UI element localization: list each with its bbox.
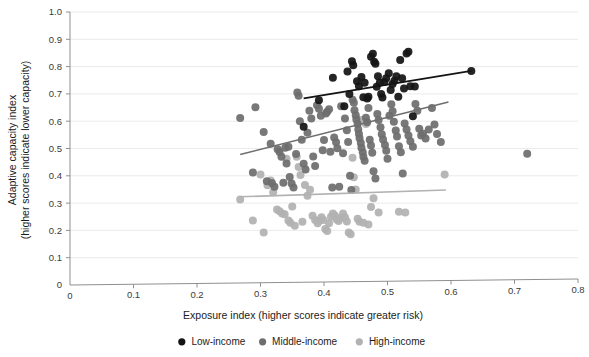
data-point <box>397 148 405 156</box>
data-point <box>306 186 314 194</box>
data-point <box>307 114 315 122</box>
x-tick-label: 0.4 <box>317 287 330 298</box>
x-tick-label: 0.1 <box>127 289 140 300</box>
data-point <box>411 100 419 108</box>
data-point <box>328 184 336 192</box>
data-point <box>368 149 376 157</box>
data-point <box>311 162 319 170</box>
data-point <box>309 152 317 160</box>
data-point <box>277 153 285 161</box>
data-point <box>260 229 268 237</box>
data-point <box>523 150 531 158</box>
data-point <box>364 220 372 228</box>
x-tick-label: 0.8 <box>571 284 584 295</box>
data-point <box>371 175 379 183</box>
data-point <box>361 79 369 87</box>
y-tick-label: 0.6 <box>49 116 62 127</box>
legend: Low-incomeMiddle-incomeHigh-income <box>178 336 425 347</box>
data-point <box>315 96 323 104</box>
data-point <box>385 69 393 77</box>
data-point <box>364 93 372 101</box>
y-axis-title-line2: (higher scores indicate lower capacity) <box>19 61 31 240</box>
legend-marker-middle-income <box>259 338 266 345</box>
y-axis-title: Adaptive capacity index (higher scores i… <box>6 61 31 240</box>
data-point <box>401 208 409 216</box>
data-point <box>295 92 303 100</box>
data-point <box>437 138 445 146</box>
data-point <box>249 217 257 225</box>
y-axis-group: 00.10.20.30.40.50.60.70.80.91.0 <box>49 6 70 290</box>
legend-label-middle-income[interactable]: Middle-income <box>272 336 337 347</box>
data-point <box>249 169 257 177</box>
data-point <box>346 172 354 180</box>
data-point <box>369 50 377 58</box>
data-point <box>291 222 299 230</box>
data-point <box>339 149 347 157</box>
x-tick-label: 0.7 <box>508 285 521 296</box>
y-tick-label: 0.7 <box>49 88 62 99</box>
data-point <box>302 166 310 174</box>
data-point <box>387 100 395 108</box>
data-point <box>375 208 383 216</box>
data-point <box>283 160 291 168</box>
data-point <box>404 48 412 56</box>
data-point <box>361 157 369 165</box>
y-tick-label: 0.8 <box>49 61 62 72</box>
data-point <box>284 143 292 151</box>
scatter-plot-svg: Adaptive capacity index (higher scores i… <box>0 0 589 357</box>
data-point <box>382 147 390 155</box>
series-high-income <box>236 116 448 238</box>
y-axis-title-line1: Adaptive capacity index <box>6 94 18 205</box>
data-point <box>341 114 349 122</box>
data-point <box>364 104 372 112</box>
data-point <box>279 179 287 187</box>
data-point <box>370 167 378 175</box>
data-point <box>320 136 328 144</box>
data-point <box>422 134 430 142</box>
data-point <box>251 103 259 111</box>
data-point <box>343 217 351 225</box>
x-tick-label: 0.3 <box>254 288 267 299</box>
legend-label-high-income[interactable]: High-income <box>369 336 426 347</box>
data-point <box>350 99 358 107</box>
data-point <box>260 128 268 136</box>
data-point <box>433 130 441 138</box>
data-point <box>393 132 401 140</box>
data-point <box>349 154 357 162</box>
data-point <box>300 123 308 131</box>
legend-marker-high-income <box>356 338 363 345</box>
data-point <box>340 102 348 110</box>
data-point <box>270 183 278 191</box>
y-tick-label: 0 <box>57 279 62 290</box>
legend-label-low-income[interactable]: Low-income <box>191 336 245 347</box>
data-point <box>323 227 331 235</box>
y-tick-label: 0.5 <box>49 143 62 154</box>
data-point <box>390 118 398 126</box>
x-axis-group: 00.10.20.30.40.50.60.70.8 <box>67 279 584 301</box>
legend-marker-low-income <box>178 338 185 345</box>
y-tick-label: 0.9 <box>49 34 62 45</box>
y-tick-label: 0.4 <box>49 170 62 181</box>
data-point <box>378 93 386 101</box>
data-point <box>441 170 449 178</box>
series-middle-income <box>236 89 531 194</box>
data-point <box>344 68 352 76</box>
data-point <box>319 146 327 154</box>
x-tick-label: 0.2 <box>190 289 203 300</box>
data-point <box>298 218 306 226</box>
x-tick-label: 0 <box>67 290 72 301</box>
data-point <box>430 120 438 128</box>
data-point <box>290 184 298 192</box>
y-tick-label: 0.1 <box>49 252 62 263</box>
x-axis-title: Exposure index (higher scores indicate g… <box>183 309 423 321</box>
data-point <box>257 170 265 178</box>
data-point <box>335 183 343 191</box>
data-point <box>292 150 300 158</box>
data-point <box>411 83 419 91</box>
data-point <box>236 114 244 122</box>
x-tick-label: 0.6 <box>444 286 457 297</box>
data-point <box>370 194 378 202</box>
chart-figure: Adaptive capacity index (higher scores i… <box>0 0 589 357</box>
data-points-group <box>236 48 531 238</box>
data-point <box>288 202 296 210</box>
